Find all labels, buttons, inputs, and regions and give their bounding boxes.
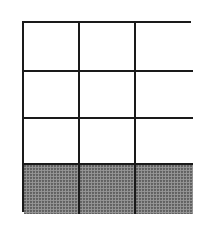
grid-cell-r1-c2 [80, 23, 136, 72]
grid-cell-r4-c3 [136, 165, 193, 214]
grid-cell-r3-c1 [24, 119, 80, 165]
grid-cell-r2-c2 [80, 72, 136, 119]
grid-cell-r4-c1 [24, 165, 80, 214]
grid-cell-r2-c3 [136, 72, 193, 119]
grid-cell-r1-c3 [136, 23, 193, 72]
grid-cell-r3-c3 [136, 119, 193, 165]
grid-cell-r2-c1 [24, 72, 80, 119]
grid-cell-r4-c2 [80, 165, 136, 214]
grid-cell-r1-c1 [24, 23, 80, 72]
fraction-grid [22, 21, 191, 212]
grid-cell-r3-c2 [80, 119, 136, 165]
